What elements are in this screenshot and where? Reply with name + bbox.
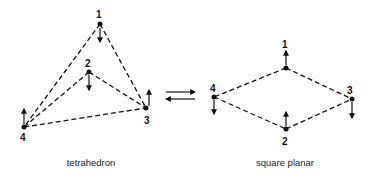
atom-1: [284, 66, 289, 71]
edge-2-3: [286, 99, 352, 129]
atom-3: [144, 106, 149, 111]
tetrahedron-caption: tetrahedron: [67, 157, 116, 168]
edge-2-4: [24, 72, 89, 127]
vertex-label: 1: [96, 9, 102, 20]
equilibrium-arrows-icon: [166, 92, 195, 99]
tetrahedron-structure: 1 2 3 4 tetrahedron: [20, 9, 150, 168]
edge-4-2: [214, 97, 286, 129]
isomerization-diagram: 1 2 3 4 tetrahedron 1 2 3 4 square plana…: [0, 0, 371, 176]
edge-1-3: [100, 24, 146, 108]
atom-2: [284, 127, 289, 132]
atom-1: [98, 22, 103, 27]
vertex-label: 4: [20, 132, 26, 143]
vertex-label: 1: [282, 39, 288, 50]
square-planar-structure: 1 2 3 4 square planar: [210, 39, 355, 168]
vertex-label: 4: [210, 83, 216, 94]
vertex-label: 2: [85, 58, 91, 69]
atom-2: [87, 70, 92, 75]
edge-1-3: [286, 68, 352, 99]
edge-2-3: [89, 72, 146, 108]
atom-4: [212, 95, 217, 100]
edge-1-4: [214, 68, 286, 97]
vertex-label: 3: [144, 115, 150, 126]
vertex-label: 2: [282, 136, 288, 147]
atom-3: [350, 97, 355, 102]
square-planar-caption: square planar: [256, 157, 314, 168]
atom-4: [22, 125, 27, 130]
vertex-label: 3: [347, 85, 353, 96]
